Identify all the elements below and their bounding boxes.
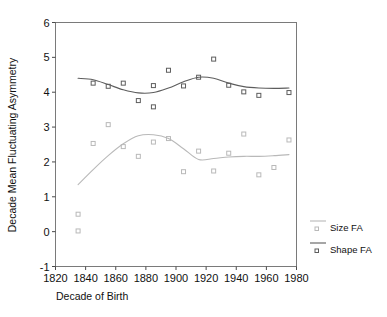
fluctuating-asymmetry-scatter-chart: 6543210-1 182018401860188019001920194019… [0,0,387,317]
y-tick-label: 4 [43,86,49,98]
data-point-marker [106,123,110,127]
x-tick-label: 1980 [284,272,308,284]
data-point-marker [76,212,80,216]
x-tick-label: 1920 [194,272,218,284]
y-tick-label: 6 [43,17,49,29]
data-point-marker [227,151,231,155]
y-tick-label: 1 [43,191,49,203]
x-axis-ticks: 182018401860188019001920194019601980 [43,267,308,284]
legend-marker-swatch [315,227,319,231]
x-tick-label: 1960 [254,272,278,284]
x-tick-label: 1940 [224,272,248,284]
legend-marker-swatch [315,249,319,253]
x-tick-label: 1880 [134,272,158,284]
data-point-marker [242,90,246,94]
data-point-marker [257,93,261,97]
y-axis-ticks: 6543210-1 [40,17,56,273]
data-point-marker [287,138,291,142]
data-point-marker [272,166,276,170]
data-point-marker [151,140,155,144]
legend-label-size-fa: Size FA [330,222,363,233]
chart-figure: 6543210-1 182018401860188019001920194019… [0,0,387,317]
data-point-marker [91,141,95,145]
data-point-marker [151,105,155,109]
legend-label-shape-fa: Shape FA [330,244,372,255]
y-tick-label: 2 [43,156,49,168]
data-point-marker [136,154,140,158]
data-point-marker [242,132,246,136]
data-point-marker [76,229,80,233]
data-point-marker [212,169,216,173]
x-tick-label: 1840 [73,272,97,284]
data-point-marker [287,91,291,95]
x-tick-label: 1900 [164,272,188,284]
series-data-markers [76,57,291,233]
data-point-marker [197,149,201,153]
chart-legend: Size FAShape FA [310,221,372,255]
y-tick-label: 5 [43,51,49,63]
data-point-marker [212,57,216,61]
data-point-marker [121,81,125,85]
x-tick-label: 1820 [43,272,67,284]
x-tick-label: 1860 [104,272,128,284]
y-axis-title: Decade Mean Fluctuating Asymmetry [6,57,18,232]
data-point-marker [91,81,95,85]
data-point-marker [182,84,186,88]
data-point-marker [257,173,261,177]
y-tick-label: 0 [43,226,49,238]
data-point-marker [166,68,170,72]
y-tick-label: 3 [43,121,49,133]
data-point-marker [151,84,155,88]
data-point-marker [182,170,186,174]
x-axis-title: Decade of Birth [56,290,129,302]
data-point-marker [136,99,140,103]
